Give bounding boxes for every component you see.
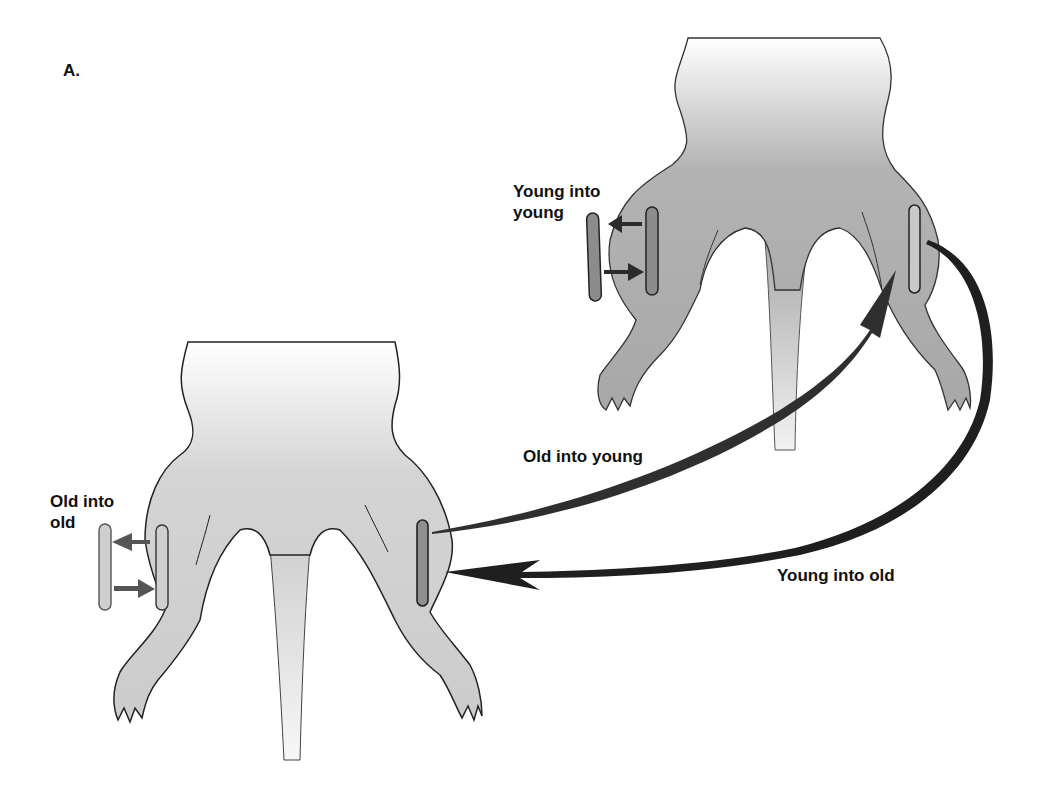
label-old-into-old-line1: Old into xyxy=(50,491,114,512)
transplant-diagram xyxy=(0,0,1042,792)
panel-label: A. xyxy=(63,60,80,81)
graft-old-left xyxy=(156,525,168,610)
graft-old-removed xyxy=(99,524,111,610)
graft-young-left xyxy=(646,207,658,295)
arrow-in-icon xyxy=(114,579,155,598)
old-mouse xyxy=(99,342,482,760)
graft-young-removed xyxy=(586,213,601,301)
label-old-into-young: Old into young xyxy=(523,446,643,467)
label-young-into-old: Young into old xyxy=(777,565,895,586)
label-old-into-old-line2: old xyxy=(50,512,114,533)
arrow-out-icon xyxy=(112,533,150,551)
graft-old-right xyxy=(417,520,428,606)
young-mouse xyxy=(586,38,970,450)
graft-young-right xyxy=(909,205,920,293)
label-young-into-young-line2: young xyxy=(513,202,601,223)
label-young-into-young: Young into young xyxy=(513,181,601,223)
label-old-into-old: Old into old xyxy=(50,491,114,533)
label-young-into-young-line1: Young into xyxy=(513,181,601,202)
old-mouse-tail xyxy=(268,525,312,760)
